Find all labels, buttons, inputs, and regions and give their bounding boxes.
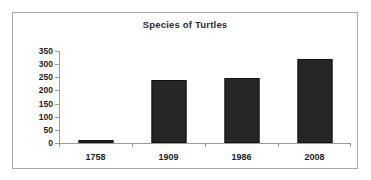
y-tick-label: 300 (39, 59, 53, 69)
bar-slot: 1909 (132, 51, 205, 143)
x-axis-label: 1909 (158, 152, 178, 162)
y-tick-label: 100 (39, 112, 53, 122)
y-tick-label: 200 (39, 85, 53, 95)
x-tick-mark (59, 143, 60, 147)
bar[interactable] (151, 80, 186, 143)
bar[interactable] (297, 59, 332, 143)
chart-title: Species of Turtles (13, 19, 357, 30)
y-tick-label: 150 (39, 99, 53, 109)
y-tick-label: 350 (39, 46, 53, 56)
bar-slot: 1986 (205, 51, 278, 143)
y-tick-label: 0 (48, 138, 53, 148)
bar[interactable] (224, 78, 259, 143)
chart-frame: Species of Turtles 050100150200250300350… (12, 12, 358, 169)
bar-slot: 1758 (59, 51, 132, 143)
x-axis-label: 1758 (85, 152, 105, 162)
bar-series: 1758190919862008 (59, 51, 351, 143)
x-tick-mark (205, 143, 206, 147)
x-axis-label: 1986 (231, 152, 251, 162)
bar-slot: 2008 (278, 51, 351, 143)
x-tick-mark (278, 143, 279, 147)
y-tick-label: 250 (39, 72, 53, 82)
y-tick-label: 50 (44, 125, 53, 135)
plot-area: 050100150200250300350 1758190919862008 (59, 51, 351, 143)
x-tick-mark (132, 143, 133, 147)
x-tick-mark (350, 143, 351, 147)
x-axis-label: 2008 (304, 152, 324, 162)
bar[interactable] (78, 140, 113, 143)
